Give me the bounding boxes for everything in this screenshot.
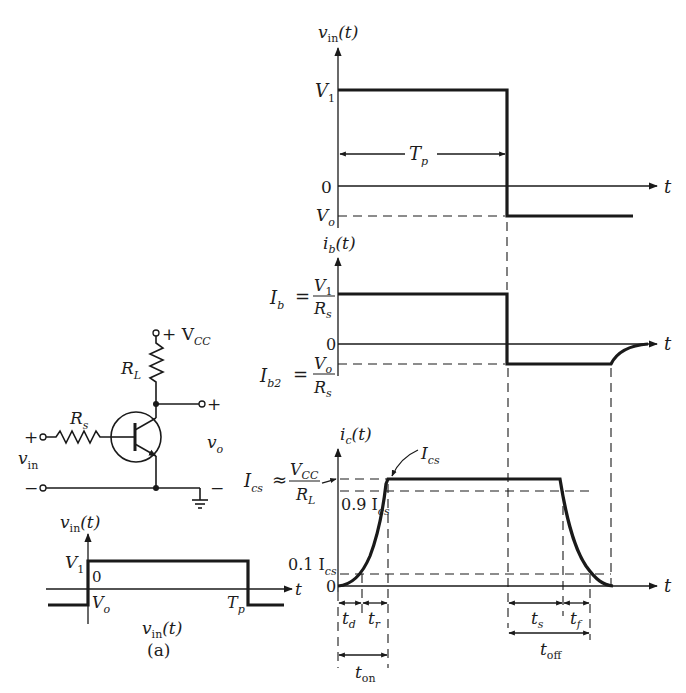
ib-formula: Ib = V1 Rs	[269, 276, 335, 321]
vin-zero-label: 0	[321, 177, 332, 197]
small-vin-plot: vin(t) V1 0 Vo Tp t vin(t) (a)	[46, 512, 302, 660]
ib-ylabel: ib(t)	[323, 233, 356, 256]
vin-ylabel: vin(t)	[318, 22, 358, 45]
tf-label: tf	[570, 608, 583, 631]
input-plus: +	[24, 427, 38, 447]
output-plus: +	[207, 394, 221, 414]
rs-label: Rs	[69, 408, 89, 432]
timing-annotations: td tr ton ts tf toff	[339, 603, 589, 685]
ts-label: ts	[531, 608, 544, 631]
bjt-switching-waveforms-figure: vin(t) V1 0 Vo t Tp ib(t) Ib = V1 Rs 0 I…	[0, 0, 686, 693]
toff-label: toff	[540, 639, 562, 662]
vin-vo-label: Vo	[316, 205, 335, 229]
emitter-node	[153, 485, 159, 491]
rl-label: RL	[120, 358, 141, 382]
svg-text:Ib: Ib	[269, 287, 284, 312]
vin-tp-label: Tp	[409, 143, 428, 168]
input-plus-terminal	[40, 434, 46, 440]
vin-plot: vin(t) V1 0 Vo t Tp	[315, 22, 672, 229]
ib2-formula: Ib2 = Vo Rs	[259, 354, 335, 400]
output-plus-terminal	[199, 401, 205, 407]
svg-text:VCC: VCC	[290, 460, 319, 482]
input-minus: −	[24, 478, 38, 498]
svg-text:V1: V1	[314, 276, 333, 298]
ic-ylabel: ic(t)	[340, 424, 372, 447]
timing-guides	[338, 222, 611, 668]
vin-circuit-label: vin	[18, 448, 38, 472]
ic-zero-label: 0	[326, 577, 336, 596]
ib-plot: ib(t) Ib = V1 Rs 0 Ib2 = Vo Rs t	[259, 233, 672, 400]
vin-waveform	[338, 90, 633, 216]
p10-label: 0.1 Ics	[288, 555, 337, 578]
svg-text:Ics: Ics	[243, 470, 263, 495]
svg-text:=: =	[295, 286, 310, 307]
td-label: td	[342, 608, 356, 631]
vcc-terminal	[153, 330, 159, 336]
svg-text:Rs: Rs	[313, 378, 332, 400]
rl-resistor	[150, 336, 163, 404]
ton-label: ton	[355, 662, 376, 685]
input-minus-terminal	[40, 485, 46, 491]
bjt-circuit: + VCC RL + vo Rs + vin − −	[18, 324, 224, 508]
ib-t-label: t	[664, 333, 672, 354]
svg-text:Rs: Rs	[313, 299, 332, 321]
ib-waveform	[338, 294, 648, 364]
ics-formula: Ics ≈ VCC RL	[243, 460, 336, 507]
ic-waveform	[338, 479, 613, 586]
svg-text:Ib2: Ib2	[259, 365, 281, 390]
vcc-label: + VCC	[162, 324, 211, 348]
vo-label: vo	[207, 432, 224, 456]
small-vin-bottom-label: vin(t)	[142, 618, 182, 641]
vin-t-label: t	[664, 176, 672, 197]
small-tp-label: Tp	[227, 593, 245, 616]
ic-t-label: t	[664, 575, 672, 596]
svg-text:RL: RL	[295, 485, 315, 507]
tr-label: tr	[368, 608, 381, 631]
vin-v1-label: V1	[315, 80, 335, 105]
small-vo-label: Vo	[92, 593, 111, 616]
rs-resistor	[46, 431, 111, 443]
svg-text:≈: ≈	[272, 469, 287, 490]
figure-caption: (a)	[147, 640, 170, 660]
ib-zero-label: 0	[326, 335, 336, 354]
ground-icon	[192, 500, 208, 508]
small-t-label: t	[295, 579, 302, 599]
small-vin-ylabel: vin(t)	[60, 512, 100, 535]
ics-callout-label: Ics	[420, 443, 440, 467]
small-zero-label: 0	[92, 568, 102, 586]
ic-plot: ic(t) Ics ≈ VCC RL Ics 0.9 Ics 0.1 Ics 0…	[243, 424, 672, 596]
output-minus: −	[210, 478, 224, 498]
svg-text:Vo: Vo	[314, 354, 333, 376]
svg-text:=: =	[293, 364, 308, 385]
ics-callout-arrow	[392, 450, 418, 476]
small-v1-label: V1	[65, 552, 84, 576]
